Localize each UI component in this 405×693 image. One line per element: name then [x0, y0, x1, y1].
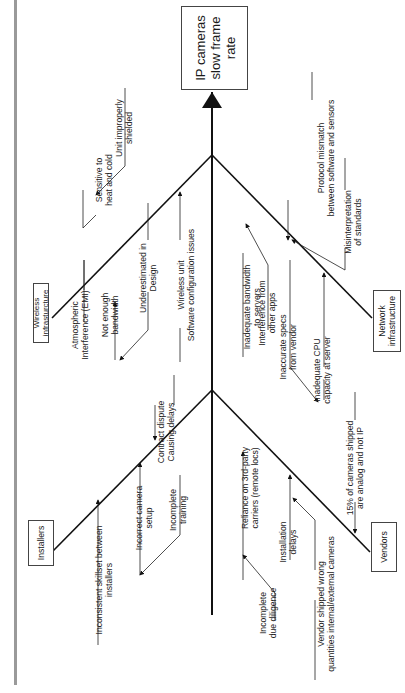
cause-label: Interference fromother apps — [257, 273, 277, 353]
cause-label: Not enoughbandwidth — [100, 285, 120, 345]
cause-label: 15% of cameras shippedare analog and not… — [345, 413, 365, 523]
category-box-vendors: Vendors — [371, 522, 397, 572]
cause-label: Unit improperlyshielded — [114, 90, 134, 166]
cause-label: Inadequate CPUcapacity at server — [312, 328, 332, 412]
cause-label: Inconsistent skillset betweeninstallers — [94, 520, 114, 640]
cause-label: Incorrect camerasetup — [134, 478, 154, 558]
category-box-network: Network infrastructure — [373, 290, 401, 352]
cause-label: Sensitive toheat and cold — [94, 140, 114, 220]
cause-label: Reliance on 3rd-partycarriers (remote lo… — [240, 440, 260, 536]
cause-label: Wireless unitSoftware configuration issu… — [176, 225, 196, 345]
cause-label: Incompletedue diligence — [258, 578, 278, 648]
category-box-wireless: Wireless infrasturcture — [33, 283, 49, 343]
category-label-installers: Installers — [36, 526, 46, 560]
cause-label: Incompletetraining — [168, 480, 188, 540]
cause-label: Vendor shipped wrongquantities internal/… — [316, 529, 336, 679]
cause-label: Misinterpretationof standards — [343, 182, 363, 262]
cause-label: Underestimated inDesign — [138, 238, 158, 318]
category-box-installers: Installers — [28, 520, 54, 566]
category-label-vendors: Vendors — [379, 531, 389, 563]
cause-label: Protocol mismatchbetween software and se… — [316, 96, 336, 220]
cause-label: Contract disputeCausing delays — [156, 392, 176, 472]
category-label-wireless: Wireless infrasturcture — [32, 283, 50, 343]
effect-head-box: IP cameras slow frame rate — [181, 6, 248, 90]
cause-label: Inaccurate specsfrom vendor — [278, 309, 298, 385]
category-label-network: Network infrastructure — [377, 291, 397, 351]
cause-label: AtmosphericInterference (EMI) — [70, 280, 90, 370]
fishbone-lines — [0, 0, 405, 693]
effect-head-label: IP cameras slow frame rate — [192, 9, 237, 87]
cause-label: Installationdelays — [278, 512, 298, 572]
